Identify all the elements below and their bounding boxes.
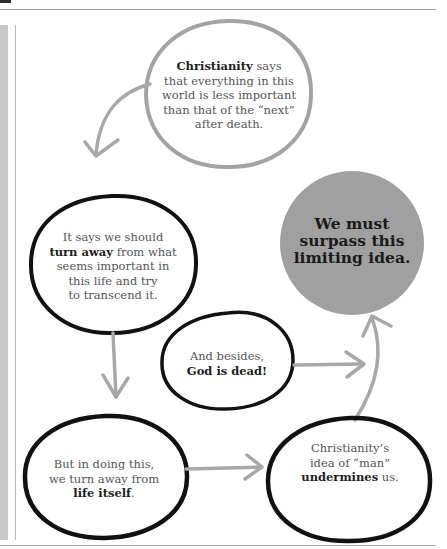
node-turn-away: It says we should turn away from what se… bbox=[49, 230, 176, 303]
arrow-life-itself-to-undermines bbox=[186, 467, 261, 469]
node-undermines: Christianity’s idea of “man” undermines … bbox=[301, 441, 398, 485]
node-line: we turn away from bbox=[49, 472, 159, 487]
node-life-itself: But in doing this, we turn away from lif… bbox=[49, 457, 159, 501]
node-line: surpass this bbox=[294, 232, 411, 249]
bold-term: Christianity bbox=[176, 59, 252, 73]
bold-term: undermines bbox=[301, 470, 378, 484]
arrow-god-is-dead-to-conclusion bbox=[294, 364, 363, 365]
line-rest: says bbox=[253, 59, 282, 73]
node-line: that everything in this bbox=[162, 73, 296, 88]
node-line: Christianity’s bbox=[301, 441, 398, 456]
node-line: seems important in bbox=[49, 259, 176, 274]
node-christianity-says: Christianity says that everything in thi… bbox=[162, 59, 296, 132]
node-line: turn away from what bbox=[49, 244, 176, 259]
node-line: But in doing this, bbox=[49, 457, 159, 472]
node-line: And besides, bbox=[187, 349, 267, 364]
bold-term: life itself bbox=[73, 486, 131, 500]
node-god-is-dead: And besides, God is dead! bbox=[187, 349, 267, 378]
arrowhead-christianity-to-turn-away bbox=[85, 140, 118, 156]
node-line: to transcend it. bbox=[49, 288, 176, 303]
node-conclusion: We must surpass this limiting idea. bbox=[294, 215, 411, 266]
node-line: undermines us. bbox=[301, 470, 398, 485]
node-line: Christianity says bbox=[162, 59, 296, 74]
node-line: idea of “man” bbox=[301, 456, 398, 471]
node-line: world is less important bbox=[162, 88, 296, 103]
node-line: this life and try bbox=[49, 273, 176, 288]
node-line: life itself. bbox=[49, 486, 159, 501]
node-line: after death. bbox=[162, 117, 296, 132]
bold-term: turn away bbox=[49, 244, 113, 258]
line-rest: from what bbox=[113, 244, 177, 258]
node-line: We must bbox=[294, 215, 411, 232]
node-line: than that of the “next” bbox=[162, 102, 296, 117]
line-rest: . bbox=[131, 486, 135, 500]
node-line: It says we should bbox=[49, 230, 176, 245]
node-line: God is dead! bbox=[187, 363, 267, 378]
bold-term: God is dead! bbox=[187, 363, 267, 377]
arrow-turn-away-to-life-itself bbox=[113, 333, 116, 397]
arrow-christianity-to-turn-away bbox=[96, 84, 150, 154]
node-line: limiting idea. bbox=[294, 249, 411, 266]
line-rest: us. bbox=[378, 470, 399, 484]
